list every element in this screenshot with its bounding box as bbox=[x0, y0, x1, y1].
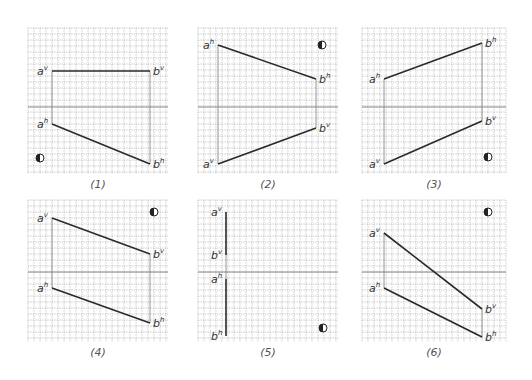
point-label-ah: ah bbox=[203, 38, 214, 52]
first-angle-symbol-icon bbox=[150, 208, 158, 216]
point-label-ah: ah bbox=[37, 117, 48, 131]
point-label-av: av bbox=[203, 157, 215, 171]
point-label-ah: ah bbox=[369, 72, 380, 86]
projection-panel-1: avbvahbh bbox=[28, 28, 168, 174]
drawing-grid: avbvahbh bbox=[198, 200, 338, 342]
projection-panel-3: bhahbvav bbox=[362, 28, 506, 174]
projection-panel-2: ahbhbvav bbox=[198, 28, 338, 174]
projection-panel-4: avbvahbh bbox=[28, 200, 168, 342]
point-label-ah: ah bbox=[369, 281, 380, 295]
first-angle-symbol-icon bbox=[319, 324, 327, 332]
projection-panel-6: avahbvbh bbox=[362, 200, 506, 342]
point-label-bv: bv bbox=[319, 121, 331, 135]
point-label-ah: ah bbox=[37, 281, 48, 295]
first-angle-symbol-icon bbox=[484, 153, 492, 161]
projection-segment bbox=[218, 128, 316, 164]
projection-segment bbox=[52, 288, 150, 323]
projection-panel-5: avbvahbh bbox=[198, 200, 338, 342]
projection-segment bbox=[384, 288, 482, 337]
first-angle-symbol-icon bbox=[318, 41, 326, 49]
point-label-bh: bh bbox=[211, 329, 222, 343]
panel-caption: (3) bbox=[414, 178, 454, 191]
point-label-av: av bbox=[37, 64, 49, 78]
first-angle-symbol-icon bbox=[484, 208, 492, 216]
point-label-bv: bv bbox=[485, 114, 497, 128]
point-label-bh: bh bbox=[319, 72, 330, 86]
drawing-grid: ahbhbvav bbox=[198, 28, 338, 174]
drawing-grid: bhahbvav bbox=[362, 28, 506, 174]
point-label-av: av bbox=[369, 226, 381, 240]
projection-segment bbox=[384, 121, 482, 164]
projection-segment bbox=[218, 45, 316, 79]
panel-caption: (5) bbox=[248, 346, 288, 359]
point-label-bv: bv bbox=[153, 247, 165, 261]
point-label-av: av bbox=[211, 205, 223, 219]
point-label-bh: bh bbox=[485, 330, 496, 344]
drawing-grid: avbvahbh bbox=[28, 28, 168, 174]
drawing-grid: avahbvbh bbox=[362, 200, 506, 342]
point-label-bh: bh bbox=[153, 157, 164, 171]
panel-caption: (4) bbox=[78, 346, 118, 359]
point-label-av: av bbox=[37, 211, 49, 225]
point-label-bv: bv bbox=[211, 248, 223, 262]
projection-segment bbox=[384, 233, 482, 309]
first-angle-symbol-icon bbox=[36, 154, 44, 162]
panel-caption: (1) bbox=[78, 178, 118, 191]
point-label-bh: bh bbox=[153, 316, 164, 330]
point-label-bh: bh bbox=[485, 36, 496, 50]
panel-caption: (6) bbox=[414, 346, 454, 359]
point-label-av: av bbox=[369, 157, 381, 171]
panel-caption: (2) bbox=[248, 178, 288, 191]
projection-segment bbox=[384, 43, 482, 79]
drawing-grid: avbvahbh bbox=[28, 200, 168, 342]
